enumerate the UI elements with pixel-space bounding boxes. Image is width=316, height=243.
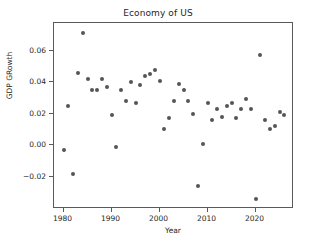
- x-axis-label: Year: [53, 226, 293, 235]
- scatter-point: [258, 53, 262, 57]
- scatter-point: [162, 127, 166, 131]
- scatter-point: [201, 142, 205, 146]
- x-axis-tick-mark: [207, 208, 208, 212]
- scatter-point: [215, 107, 219, 111]
- x-axis-tick-label: 2010: [187, 214, 227, 223]
- scatter-point: [186, 99, 190, 103]
- scatter-point: [105, 85, 109, 89]
- scatter-point: [62, 148, 66, 152]
- scatter-point: [196, 184, 200, 188]
- scatter-plot-area: [54, 23, 292, 207]
- scatter-point: [114, 145, 118, 149]
- x-axis-tick-label: 1990: [91, 214, 131, 223]
- scatter-point: [249, 107, 253, 111]
- y-axis-tick-label: 0.02: [2, 109, 46, 118]
- scatter-point: [230, 101, 234, 105]
- scatter-point: [90, 88, 94, 92]
- x-axis-tick-label: 2020: [235, 214, 275, 223]
- scatter-point: [119, 88, 123, 92]
- scatter-point: [129, 80, 133, 84]
- scatter-point: [282, 113, 286, 117]
- x-axis-tick-label: 1980: [43, 214, 83, 223]
- y-axis-tick-label: 0.06: [2, 46, 46, 55]
- scatter-point: [148, 72, 152, 76]
- scatter-point: [177, 82, 181, 86]
- scatter-point: [234, 116, 238, 120]
- x-axis-tick-mark: [63, 208, 64, 212]
- scatter-point: [167, 116, 171, 120]
- scatter-point: [172, 99, 176, 103]
- scatter-point: [273, 124, 277, 128]
- y-axis-tick-label: −0.02: [2, 172, 46, 181]
- scatter-point: [210, 118, 214, 122]
- x-axis-tick-label: 2000: [139, 214, 179, 223]
- chart-title: Economy of US: [0, 8, 316, 18]
- scatter-point: [143, 74, 147, 78]
- scatter-point: [138, 83, 142, 87]
- axes-frame: [53, 22, 293, 208]
- x-axis-tick-mark: [255, 208, 256, 212]
- scatter-point: [239, 107, 243, 111]
- y-axis-tick-label: 0.00: [2, 140, 46, 149]
- scatter-point: [158, 79, 162, 83]
- scatter-point: [100, 77, 104, 81]
- scatter-point: [278, 110, 282, 114]
- matplotlib-figure: Economy of US GDP GRowth −0.020.000.020.…: [0, 0, 316, 243]
- scatter-point: [95, 88, 99, 92]
- scatter-point: [263, 118, 267, 122]
- scatter-point: [268, 127, 272, 131]
- x-axis-tick-mark: [111, 208, 112, 212]
- scatter-point: [124, 99, 128, 103]
- scatter-point: [220, 115, 224, 119]
- scatter-point: [182, 88, 186, 92]
- scatter-point: [81, 31, 85, 35]
- scatter-point: [76, 71, 80, 75]
- scatter-point: [225, 104, 229, 108]
- scatter-point: [153, 68, 157, 72]
- scatter-point: [134, 101, 138, 105]
- scatter-point: [86, 77, 90, 81]
- scatter-point: [206, 101, 210, 105]
- x-axis-tick-mark: [159, 208, 160, 212]
- scatter-point: [254, 197, 258, 201]
- scatter-point: [244, 97, 248, 101]
- y-axis-tick-label: 0.04: [2, 77, 46, 86]
- scatter-point: [66, 104, 70, 108]
- scatter-point: [191, 112, 195, 116]
- scatter-point: [71, 172, 75, 176]
- scatter-point: [110, 113, 114, 117]
